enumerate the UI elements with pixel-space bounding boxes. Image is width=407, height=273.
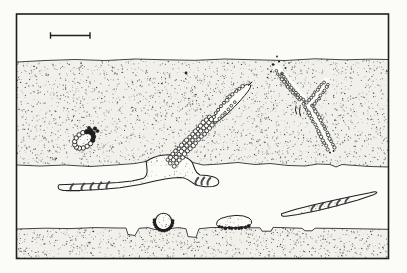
illustration-canvas xyxy=(0,0,407,273)
lower-stippled-tissue-band xyxy=(17,226,389,258)
figure-page xyxy=(0,0,407,273)
isolated-specks xyxy=(185,72,188,75)
